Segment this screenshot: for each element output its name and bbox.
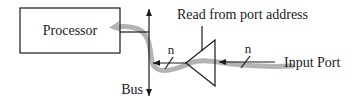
bus-label: Bus (121, 82, 143, 97)
processor-block: Processor (20, 8, 120, 53)
bus-width-label-left: n (168, 42, 175, 57)
read-control-label: Read from port address (177, 7, 308, 22)
tri-state-buffer (186, 26, 215, 86)
bus-width-label-right: n (245, 41, 252, 56)
input-port-label: Input Port (284, 55, 341, 70)
input-port-read-diagram: Processor Bus Read from port address n n… (0, 0, 364, 100)
processor-label: Processor (43, 23, 98, 38)
